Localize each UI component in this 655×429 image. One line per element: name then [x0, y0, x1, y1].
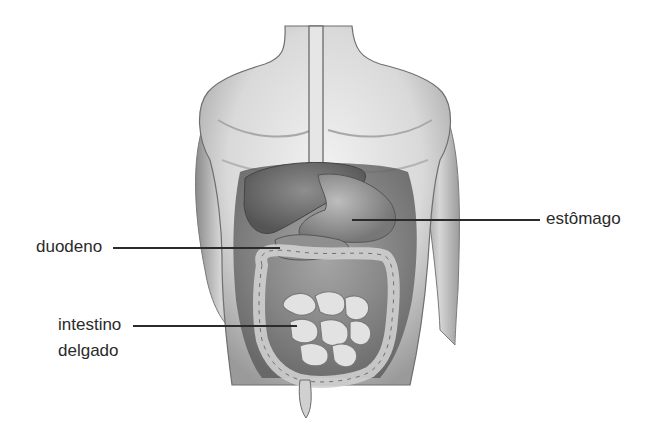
esophagus	[309, 26, 323, 176]
duodeno-leader-line	[113, 247, 280, 249]
intestino-delgado-leader-line	[133, 325, 297, 327]
label-duodeno: duodeno	[36, 236, 102, 258]
label-intestino-delgado-line1: intestino	[58, 314, 121, 336]
estomago-leader-line	[352, 219, 540, 221]
label-estomago: estômago	[546, 208, 621, 230]
label-intestino-delgado-line2: delgado	[58, 340, 119, 362]
rectum	[299, 380, 311, 418]
